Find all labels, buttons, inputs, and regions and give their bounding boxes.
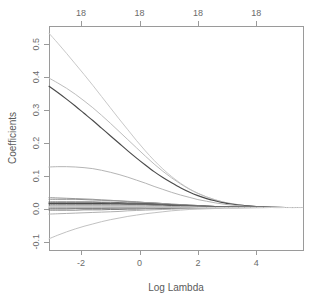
y-axis-tick-label: -0.1 [31,234,41,250]
top-axis-tick-label: 18 [134,8,144,18]
y-axis-tick-label: 0.5 [31,38,41,51]
plot-frame [50,27,304,251]
top-axis-tick-label: 18 [193,8,203,18]
y-axis-title: Coefficients [7,112,18,164]
y-axis-tick-label: 0.3 [31,104,41,117]
x-axis-tick-label: -2 [77,258,85,268]
y-axis-tick-label: 0.4 [31,71,41,84]
plot-canvas: -202418181818-0.10.00.10.20.30.40.5 Log … [0,0,316,300]
axis-ticks [44,21,257,255]
x-axis-tick-label: 4 [254,258,259,268]
y-axis-tick-label: 0.2 [31,137,41,150]
coefficient-path [49,78,303,207]
coefficient-path-plot: -202418181818-0.10.00.10.20.30.40.5 Log … [0,0,316,300]
axis-tick-labels: -202418181818-0.10.00.10.20.30.40.5 [31,8,261,268]
coefficient-path [49,86,303,207]
x-axis-tick-label: 0 [137,258,142,268]
coefficient-paths [49,33,303,239]
coefficient-path [49,167,303,208]
y-axis-tick-label: 0.1 [31,170,41,183]
x-axis-title: Log Lambda [148,282,204,293]
x-axis-tick-label: 2 [195,258,200,268]
top-axis-tick-label: 18 [76,8,86,18]
y-axis-tick-label: 0.0 [31,203,41,216]
top-axis-tick-label: 18 [251,8,261,18]
